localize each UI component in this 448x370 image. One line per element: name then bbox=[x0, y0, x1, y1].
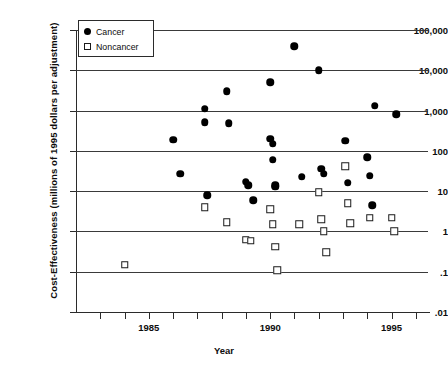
data-point-noncancer bbox=[322, 249, 330, 257]
data-point-cancer bbox=[342, 137, 350, 145]
data-point-cancer bbox=[298, 173, 306, 181]
gridline bbox=[76, 151, 428, 152]
data-point-noncancer bbox=[271, 243, 279, 251]
legend-item-noncancer: Noncancer bbox=[84, 39, 153, 54]
data-point-cancer bbox=[393, 111, 401, 119]
data-point-cancer bbox=[368, 201, 376, 209]
data-point-cancer bbox=[223, 88, 231, 96]
data-point-cancer bbox=[203, 191, 211, 199]
data-point-cancer bbox=[371, 102, 379, 110]
gridline bbox=[76, 272, 428, 273]
data-point-noncancer bbox=[347, 219, 355, 227]
chart-legend: Cancer Noncancer bbox=[78, 20, 154, 57]
data-point-noncancer bbox=[320, 228, 328, 236]
data-point-noncancer bbox=[274, 266, 282, 274]
data-point-cancer bbox=[320, 170, 328, 178]
data-point-cancer bbox=[249, 196, 257, 204]
data-point-cancer bbox=[201, 105, 209, 113]
plot-area bbox=[76, 30, 428, 312]
x-tick-mark bbox=[197, 312, 198, 319]
data-point-cancer bbox=[266, 79, 274, 87]
gridline bbox=[76, 231, 428, 232]
data-point-cancer bbox=[169, 136, 177, 144]
x-axis-title: Year bbox=[0, 345, 448, 356]
data-point-cancer bbox=[245, 182, 253, 190]
data-point-noncancer bbox=[266, 205, 274, 213]
data-point-cancer bbox=[269, 140, 277, 148]
data-point-noncancer bbox=[388, 214, 396, 222]
y-axis-title: Cost-Effectiveness (millions of 1995 dol… bbox=[48, 11, 59, 311]
data-point-cancer bbox=[177, 170, 185, 178]
x-tick-mark bbox=[392, 312, 393, 319]
gridline bbox=[76, 70, 428, 71]
x-tick-label: 1990 bbox=[247, 322, 293, 333]
data-point-noncancer bbox=[247, 237, 255, 245]
data-point-noncancer bbox=[315, 188, 323, 196]
x-tick-mark bbox=[100, 312, 101, 319]
x-tick-label: 1985 bbox=[126, 322, 172, 333]
data-point-cancer bbox=[315, 67, 323, 75]
x-axis-line bbox=[76, 312, 430, 313]
x-tick-mark bbox=[270, 312, 271, 319]
data-point-noncancer bbox=[121, 261, 129, 269]
x-tick-mark bbox=[149, 312, 150, 319]
scatter-chart-figure: Cost-Effectiveness (millions of 1995 dol… bbox=[0, 0, 448, 370]
data-point-noncancer bbox=[317, 216, 325, 224]
data-point-noncancer bbox=[366, 214, 374, 222]
open-square-icon bbox=[84, 43, 91, 50]
x-tick-mark bbox=[367, 312, 368, 319]
data-point-cancer bbox=[366, 172, 374, 180]
legend-label-cancer: Cancer bbox=[96, 27, 124, 37]
x-tick-mark bbox=[319, 312, 320, 319]
data-point-noncancer bbox=[296, 221, 304, 229]
x-tick-mark bbox=[222, 312, 223, 319]
x-tick-mark bbox=[246, 312, 247, 319]
legend-item-cancer: Cancer bbox=[84, 24, 153, 39]
data-point-noncancer bbox=[201, 203, 209, 211]
legend-label-noncancer: Noncancer bbox=[96, 42, 139, 52]
data-point-noncancer bbox=[390, 228, 398, 236]
data-point-cancer bbox=[269, 156, 277, 164]
gridline bbox=[76, 111, 428, 112]
x-tick-label: 1995 bbox=[369, 322, 415, 333]
data-point-cancer bbox=[291, 42, 299, 50]
data-point-noncancer bbox=[223, 218, 231, 226]
data-point-noncancer bbox=[269, 221, 277, 229]
filled-circle-icon bbox=[84, 28, 91, 35]
data-point-cancer bbox=[364, 153, 372, 161]
gridline bbox=[76, 191, 428, 192]
data-point-noncancer bbox=[344, 200, 352, 208]
data-point-cancer bbox=[201, 119, 209, 127]
x-tick-mark bbox=[343, 312, 344, 319]
data-point-cancer bbox=[271, 183, 279, 191]
data-point-cancer bbox=[225, 119, 233, 127]
x-tick-mark bbox=[294, 312, 295, 319]
data-point-noncancer bbox=[342, 162, 350, 170]
data-point-cancer bbox=[344, 179, 352, 187]
x-tick-mark bbox=[173, 312, 174, 319]
x-tick-mark bbox=[416, 312, 417, 319]
x-tick-mark bbox=[125, 312, 126, 319]
